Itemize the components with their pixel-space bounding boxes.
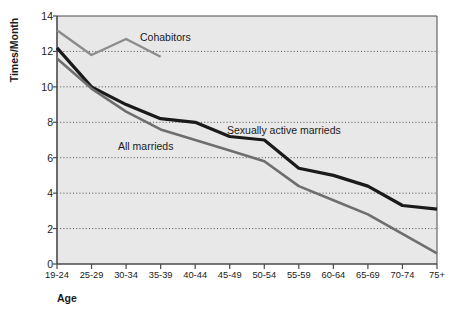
plot-background xyxy=(57,16,437,264)
x-tick-label: 19-24 xyxy=(45,270,69,280)
x-tick-label: 70-74 xyxy=(391,270,415,280)
y-tick-label: 8 xyxy=(33,116,53,128)
x-axis-title: Age xyxy=(57,292,77,304)
chart-figure: Times/Month 02468101214 19-2425-2930-343… xyxy=(0,0,452,317)
series-label-cohabitors: Cohabitors xyxy=(140,31,191,43)
y-tick-label: 10 xyxy=(33,81,53,93)
y-tick-label: 2 xyxy=(33,223,53,235)
x-tick-label: 60-64 xyxy=(321,270,345,280)
y-axis-title: Times/Month xyxy=(8,10,20,90)
y-tick-label: 14 xyxy=(33,10,53,22)
x-tick-label: 65-69 xyxy=(356,270,380,280)
y-tick-label: 4 xyxy=(33,187,53,199)
series-label-sexually-active-marrieds: Sexually active marrieds xyxy=(227,124,341,136)
x-tick-label: 25-29 xyxy=(80,270,104,280)
x-tick-label: 40-44 xyxy=(183,270,207,280)
y-tick-label: 12 xyxy=(33,45,53,57)
x-axis-tick-labels: 19-2425-2930-3435-3940-4445-4950-5455-59… xyxy=(0,264,452,286)
x-tick-label: 75+ xyxy=(429,270,445,280)
x-tick-label: 55-59 xyxy=(287,270,311,280)
x-tick-label: 50-54 xyxy=(252,270,276,280)
x-tick-label: 35-39 xyxy=(149,270,173,280)
x-tick-label: 45-49 xyxy=(218,270,242,280)
x-tick-label: 30-34 xyxy=(114,270,138,280)
y-tick-label: 6 xyxy=(33,152,53,164)
series-label-all-marrieds: All marrieds xyxy=(118,140,173,152)
